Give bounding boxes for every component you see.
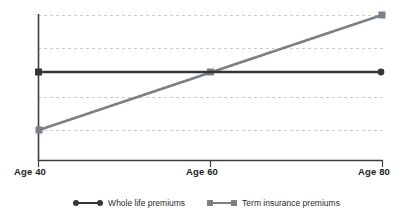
whole-life-marker-start — [35, 69, 42, 76]
legend-item-term-insurance-premiums: Term insurance premiums — [207, 198, 340, 208]
x-tick-label-age-60: Age 60 — [186, 166, 218, 178]
legend-label-term-insurance-premiums: Term insurance premiums — [242, 198, 340, 208]
chart-plot-area — [0, 0, 413, 219]
x-tick-label-age-80: Age 80 — [358, 166, 390, 178]
legend-item-whole-life-premiums: Whole life premiums — [73, 198, 185, 208]
x-axis-tick-labels: Age 40 Age 60 Age 80 — [0, 166, 413, 182]
whole-life-marker-end — [378, 69, 385, 76]
premium-comparison-chart: Age 40 Age 60 Age 80 Whole life premiums… — [0, 0, 413, 219]
x-tick-label-age-40: Age 40 — [14, 166, 46, 178]
legend-swatch-whole-life — [73, 199, 103, 208]
legend-label-whole-life-premiums: Whole life premiums — [108, 198, 185, 208]
legend-swatch-term-insurance — [207, 199, 237, 208]
chart-legend: Whole life premiums Term insurance premi… — [0, 195, 413, 211]
term-insurance-marker-end — [379, 12, 386, 19]
term-insurance-marker-start — [36, 127, 43, 134]
